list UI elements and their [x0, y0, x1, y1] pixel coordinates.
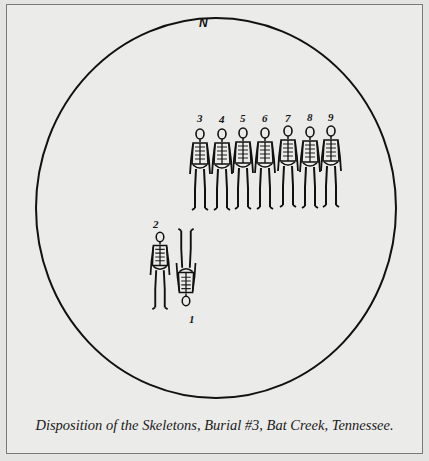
burial-diagram	[0, 0, 429, 461]
figure-caption: Disposition of the Skeletons, Burial #3,…	[0, 417, 429, 434]
skeleton-label-5: 5	[240, 112, 246, 124]
skeleton-label-3: 3	[197, 112, 203, 124]
skeleton-8	[300, 127, 320, 208]
north-label: N	[199, 16, 208, 30]
skeleton-3	[190, 129, 210, 210]
skeleton-label-1: 1	[189, 313, 195, 325]
skeleton-label-4: 4	[219, 113, 225, 125]
skeleton-4	[212, 129, 232, 210]
skeleton-9	[321, 126, 341, 207]
skeleton-7	[278, 126, 298, 207]
skeleton-5	[233, 128, 253, 209]
skeleton-row	[190, 126, 341, 210]
skeleton-label-2: 2	[153, 218, 159, 230]
skeleton-label-9: 9	[328, 111, 334, 123]
skeleton-2	[151, 232, 170, 309]
skeleton-label-7: 7	[285, 112, 291, 124]
skeleton-label-8: 8	[307, 111, 313, 123]
skeleton-label-6: 6	[262, 112, 268, 124]
skeleton-1	[177, 229, 196, 306]
skeleton-6	[255, 128, 275, 209]
